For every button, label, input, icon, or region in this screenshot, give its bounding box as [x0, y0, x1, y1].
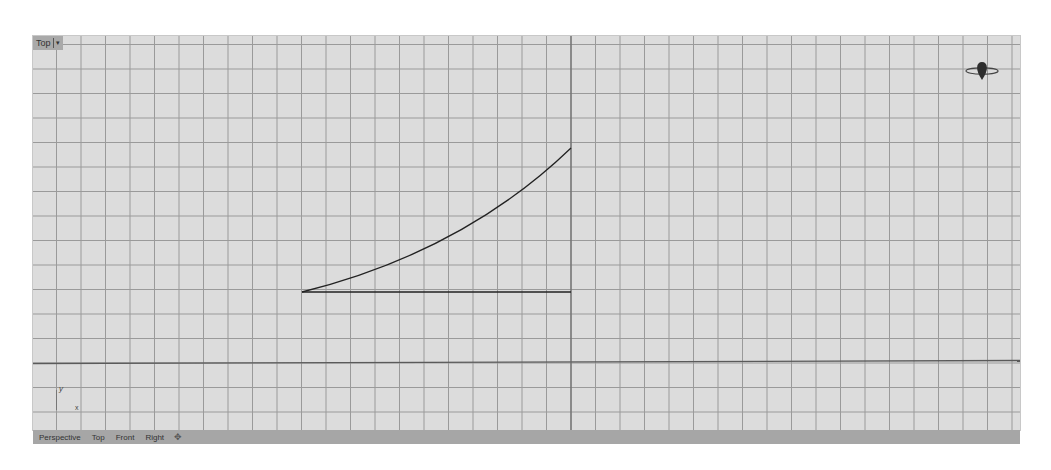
tab-top[interactable]: Top [86, 433, 110, 442]
tab-perspective[interactable]: Perspective [33, 433, 86, 442]
axis-indicator: y x [51, 384, 81, 414]
curve [302, 148, 571, 292]
dropdown-arrow-icon[interactable]: ▾ [53, 38, 61, 48]
x-axis-label: x [75, 404, 79, 411]
viewport-name: Top [36, 38, 51, 48]
tab-front[interactable]: Front [110, 433, 140, 442]
top-viewport[interactable]: Top ▾ y x [33, 36, 1020, 430]
viewport-tab-bar: Perspective Top Front Right ✥ [33, 430, 1020, 444]
tab-right[interactable]: Right [139, 433, 169, 442]
y-axis-label: y [59, 384, 63, 393]
add-viewport-icon[interactable]: ✥ [169, 432, 187, 442]
y-axis-indicator-line [56, 390, 57, 410]
viewport-title[interactable]: Top ▾ [33, 36, 63, 50]
navigation-gizmo-icon[interactable] [962, 56, 1002, 86]
grid [33, 36, 1020, 430]
